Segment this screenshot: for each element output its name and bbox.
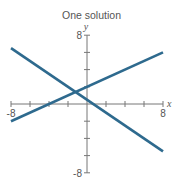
- x-axis-label: x: [166, 98, 172, 109]
- x-tick-label-min: -8: [7, 108, 16, 119]
- y-axis-label: y: [83, 21, 89, 32]
- y-tick-label-min: -8: [73, 168, 82, 179]
- x-tick-label-max: 8: [160, 108, 166, 119]
- chart-plot: -888-8xy: [0, 0, 183, 180]
- y-tick-label-max: 8: [76, 30, 82, 41]
